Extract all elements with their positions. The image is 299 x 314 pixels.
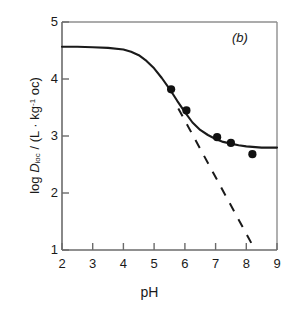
y-axis-title-prefix: log — [27, 173, 42, 194]
y-axis-title-suffix: oc) — [27, 77, 42, 99]
y-axis-title: log Dioc / (L · kg-1 oc) — [27, 26, 42, 246]
x-tick-label-4: 4 — [113, 257, 133, 270]
data-point — [167, 85, 175, 93]
series-measured-data-points — [167, 85, 257, 158]
data-point — [182, 106, 190, 114]
figure-panel-b: 5 4 3 2 1 2 3 4 5 6 7 8 9 pH log Dioc / … — [0, 0, 299, 314]
data-point — [213, 133, 221, 141]
y-axis-title-subscript: ioc — [33, 153, 42, 163]
y-axis-title-superscript: -1 — [28, 99, 37, 106]
series-model-fit-solid — [62, 47, 277, 148]
y-axis-title-middle: / (L · kg — [27, 106, 42, 153]
x-tick-label-5: 5 — [144, 257, 164, 270]
data-point — [248, 150, 256, 158]
x-tick-label-8: 8 — [236, 257, 256, 270]
series-limiting-slope-dashed — [178, 108, 255, 250]
axes-frame — [62, 22, 277, 250]
x-tick-label-2: 2 — [52, 257, 72, 270]
x-tick-label-3: 3 — [83, 257, 103, 270]
panel-label: (b) — [232, 30, 248, 45]
x-axis-title: pH — [0, 284, 299, 300]
data-point — [227, 139, 235, 147]
y-axis-ticks — [62, 22, 69, 250]
y-axis-title-symbol: D — [27, 163, 42, 172]
x-tick-label-6: 6 — [175, 257, 195, 270]
x-tick-label-9: 9 — [267, 257, 287, 270]
x-axis-ticks — [62, 243, 277, 250]
x-tick-label-7: 7 — [206, 257, 226, 270]
